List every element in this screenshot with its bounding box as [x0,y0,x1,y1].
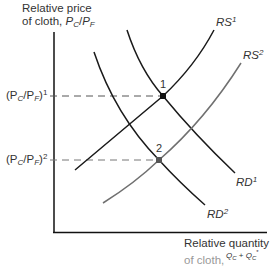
rs2-curve [103,63,241,203]
point-2-label: 2 [156,142,162,155]
equilibrium-point-1 [160,93,166,99]
equilibrium-point-2 [156,157,162,163]
y-axis-label-line2: of cloth, PC/PF [22,15,95,28]
rd2-label: RD2 [207,208,228,221]
rd2-curve [94,52,205,205]
rd1-curve [127,30,235,173]
rs2-label: RS2 [243,49,263,62]
x-axis-fraction-top: QC + QC* [226,249,259,262]
y-axis-label: Relative price of cloth, PC/PF [22,2,95,28]
y-axis-label-line1: Relative price [22,2,95,15]
point-1-label: 1 [160,78,166,91]
rd1-label: RD1 [236,176,257,189]
rs1-label: RS1 [216,16,236,29]
x-axis-label-partial: of cloth, [184,254,224,267]
rs1-curve [75,30,214,170]
price-level-1-label: (PC/PF)1 [6,89,47,102]
price-level-2-label: (PC/PF)2 [6,153,47,166]
